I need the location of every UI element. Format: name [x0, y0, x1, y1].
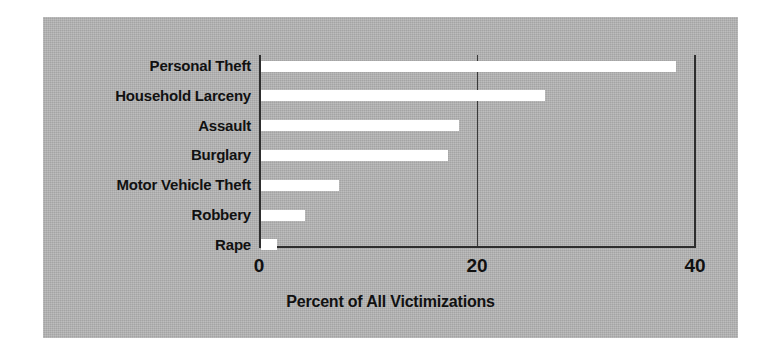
plot-area	[259, 55, 695, 248]
bar	[261, 180, 339, 191]
bar	[261, 120, 459, 131]
bar	[261, 210, 305, 221]
y-axis-category-labels: Personal TheftHousehold LarcenyAssaultBu…	[43, 55, 251, 255]
y-axis-label: Assault	[198, 118, 251, 133]
y-axis-label: Burglary	[191, 147, 251, 162]
right-spine	[694, 55, 696, 248]
bar	[261, 90, 545, 101]
x-tick-label: 0	[254, 255, 265, 277]
bar	[261, 61, 676, 72]
y-axis-label: Rape	[215, 237, 251, 252]
y-axis-label: Robbery	[192, 207, 251, 222]
x-tick-label: 20	[466, 255, 487, 277]
x-tick-label: 40	[684, 255, 705, 277]
y-axis-label: Personal Theft	[150, 58, 251, 73]
bar	[261, 150, 448, 161]
x-axis-tick-labels: 02040	[259, 255, 699, 281]
y-axis-label: Motor Vehicle Theft	[116, 177, 251, 192]
chart-panel: Personal TheftHousehold LarcenyAssaultBu…	[43, 17, 738, 338]
chart-figure: Personal TheftHousehold LarcenyAssaultBu…	[0, 0, 782, 356]
gridline-20	[477, 55, 478, 246]
y-axis-label: Household Larceny	[115, 88, 251, 103]
x-axis-spine	[259, 246, 696, 248]
x-axis-title: Percent of All Victimizations	[43, 293, 738, 311]
bar	[261, 239, 277, 250]
